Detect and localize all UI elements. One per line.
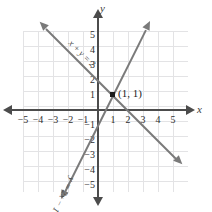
x-tick-label: 1 xyxy=(111,115,116,125)
graph-figure: x y −5−4−3−2−11234554321−1−2−3−4−5 x + y… xyxy=(0,0,212,212)
x-tick-label: −5 xyxy=(18,115,29,125)
y-tick-label: −1 xyxy=(82,120,95,130)
intersection-point-marker xyxy=(110,92,115,97)
intersection-point-label: (1, 1) xyxy=(118,87,142,99)
x-axis-left-arrow-icon xyxy=(3,105,12,115)
x-tick-label: −2 xyxy=(63,115,74,125)
x-tick-label: 2 xyxy=(126,115,131,125)
y-tick-label: 1 xyxy=(82,90,95,100)
x-tick-label: −3 xyxy=(48,115,59,125)
x-axis-label: x xyxy=(197,103,202,115)
y-tick-label: −5 xyxy=(82,180,95,190)
y-tick-label: 5 xyxy=(82,30,95,40)
x-axis-right-arrow-icon xyxy=(186,105,195,115)
x-tick-label: 5 xyxy=(171,115,176,125)
y-tick-label: −4 xyxy=(82,165,95,175)
x-tick-label: −4 xyxy=(33,115,44,125)
y-axis-down-arrow-icon xyxy=(93,197,103,206)
x-tick-label: 4 xyxy=(156,115,161,125)
y-axis xyxy=(97,12,99,202)
y-axis-label: y xyxy=(100,2,105,14)
